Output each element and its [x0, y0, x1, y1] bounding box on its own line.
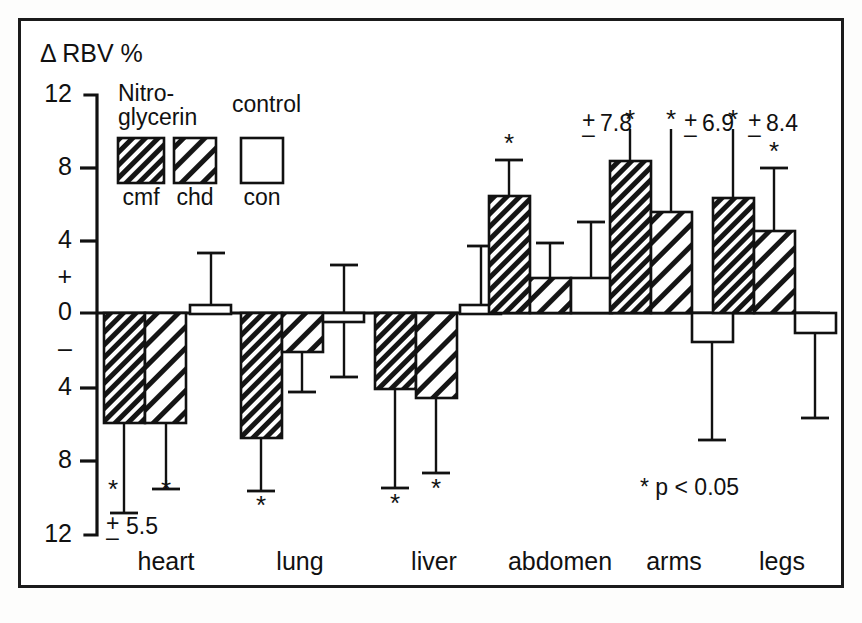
- significance-star-arms-chd: *: [666, 104, 676, 134]
- bar-lung-cmf: [241, 313, 282, 438]
- bar-group-arms: * * + – 7.8 + – 6.9: [582, 104, 734, 440]
- bar-liver-chd: [416, 313, 457, 398]
- category-label-lung: lung: [276, 547, 323, 575]
- bar-heart-chd: [145, 313, 186, 423]
- legend-swatch-cmf: [118, 138, 164, 183]
- significance-star-legs-chd: *: [769, 136, 779, 166]
- legend-label-con: con: [243, 184, 280, 210]
- annotation-heart-value: 5.5: [126, 513, 158, 539]
- bar-arms-con: [692, 313, 733, 342]
- pvalue-note: * p < 0.05: [640, 474, 739, 500]
- bar-heart-cmf: [104, 313, 145, 423]
- bar-lung-chd: [282, 313, 323, 352]
- legend-swatch-chd: [174, 138, 216, 183]
- significance-star-liver-cmf: *: [390, 488, 400, 518]
- bar-lung-con: [323, 313, 364, 322]
- category-label-legs: legs: [759, 547, 805, 575]
- y-label-minus-sign: –: [58, 334, 72, 362]
- significance-star-legs-cmf: *: [728, 104, 738, 134]
- annotation-arms-pm-2: + – 6.9: [684, 107, 734, 147]
- x-axis-labels: heart lung liver abdomen arms legs: [138, 547, 805, 575]
- axis-title: Δ RBV %: [40, 39, 143, 67]
- legend-swatch-con: [241, 138, 283, 183]
- bar-abdomen-cmf: [489, 196, 530, 313]
- significance-star-heart-cmf: *: [108, 474, 118, 504]
- y-label-12-top: 12: [44, 79, 72, 107]
- annotation-arms1-minus: –: [582, 121, 595, 147]
- pvalue-note-text: * p < 0.05: [640, 474, 739, 500]
- y-label-12-bottom: 12: [44, 519, 72, 547]
- category-label-liver: liver: [411, 547, 457, 575]
- legend-group-title-line2: glycerin: [118, 104, 197, 130]
- annotation-legs-minus: –: [748, 121, 761, 147]
- bar-group-legs: * * + – 8.4: [713, 104, 836, 418]
- significance-star-liver-chd: *: [431, 473, 441, 503]
- y-label-4-top: 4: [58, 225, 72, 253]
- legend-label-chd: chd: [176, 184, 213, 210]
- bar-arms-chd: [651, 212, 692, 313]
- category-label-arms: arms: [646, 547, 702, 575]
- bar-legs-chd: [754, 231, 795, 313]
- legend-control-title: control: [232, 91, 301, 117]
- annotation-arms2-minus: –: [684, 121, 697, 147]
- legend-group-title-line1: Nitro-: [118, 80, 174, 106]
- significance-star-lung-cmf: *: [256, 490, 266, 520]
- y-label-8-top: 8: [58, 152, 72, 180]
- significance-star-heart-chd: *: [161, 474, 171, 504]
- bar-legs-cmf: [713, 198, 754, 313]
- significance-star-abdomen-cmf: *: [504, 128, 514, 158]
- annotation-heart-pm: + – 5.5: [106, 510, 158, 550]
- bar-arms-cmf: [610, 161, 651, 313]
- bar-chart: 12 8 4 + 0 – 4 8 12 Δ RBV % Nitro- glyce…: [0, 0, 862, 623]
- bar-heart-con: [190, 305, 231, 314]
- legend-label-cmf: cmf: [122, 184, 160, 210]
- figure-root: 12 8 4 + 0 – 4 8 12 Δ RBV % Nitro- glyce…: [0, 0, 862, 623]
- bar-group-heart: * * + – 5.5: [104, 253, 231, 550]
- y-label-plus-sign: +: [57, 262, 72, 290]
- y-label-4-bottom: 4: [58, 372, 72, 400]
- bar-group-lung: *: [241, 265, 364, 520]
- annotation-legs-value: 8.4: [766, 110, 798, 136]
- bar-liver-cmf: [375, 313, 416, 389]
- bar-group-liver: * *: [375, 246, 501, 518]
- category-label-heart: heart: [138, 547, 195, 575]
- annotation-arms1-value: 7.8: [600, 110, 632, 136]
- y-label-zero: 0: [58, 297, 72, 325]
- legend: Nitro- glycerin control cmf chd con: [118, 80, 301, 210]
- bar-abdomen-con: [571, 278, 612, 313]
- annotation-heart-minus: –: [106, 524, 119, 550]
- category-label-abdomen: abdomen: [508, 547, 612, 575]
- y-axis-spine: [85, 95, 97, 535]
- bar-legs-con: [795, 313, 836, 333]
- bar-group-abdomen: *: [489, 128, 612, 313]
- annotation-arms-pm-1: + – 7.8: [582, 107, 632, 147]
- bar-abdomen-chd: [530, 278, 571, 313]
- y-label-8-bottom: 8: [58, 445, 72, 473]
